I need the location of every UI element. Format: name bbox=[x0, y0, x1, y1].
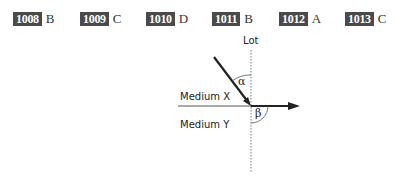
medium-x-label: Medium X bbox=[180, 91, 230, 102]
alpha-angle-label: α bbox=[238, 75, 245, 88]
refraction-diagram bbox=[0, 0, 396, 178]
beta-angle-label: β bbox=[255, 107, 261, 120]
medium-y-label: Medium Y bbox=[180, 119, 229, 130]
refracted-arrowhead-icon bbox=[288, 102, 300, 110]
normal-label: Lot bbox=[243, 35, 258, 46]
